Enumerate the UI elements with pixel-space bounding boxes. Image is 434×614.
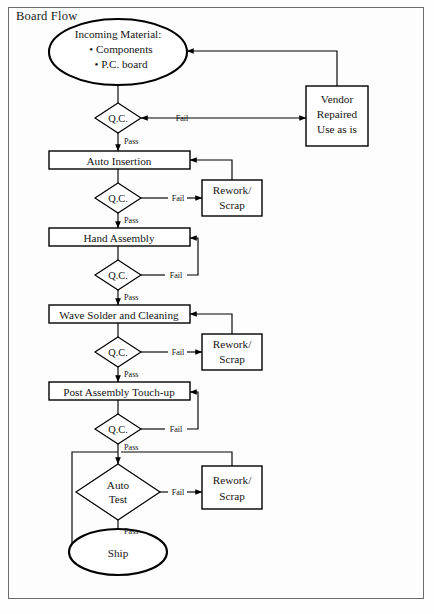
edge-rework2-to-wave-solder: [190, 314, 232, 334]
node-ship-label: Ship: [108, 547, 129, 559]
edge-vendor-to-incoming: [187, 51, 337, 86]
node-qc3-label: Q.C.: [108, 270, 128, 281]
node-qc5-label: Q.C.: [108, 424, 128, 435]
flowchart-canvas: Incoming Material: • Components • P.C. b…: [0, 0, 434, 614]
node-hand-assembly-label: Hand Assembly: [83, 232, 155, 244]
node-auto-test-line-1: Test: [109, 493, 128, 505]
node-rework2-line-1: Scrap: [219, 353, 245, 365]
node-qc2-label: Q.C.: [108, 193, 128, 204]
node-vendor-line-1: Repaired: [317, 108, 358, 120]
edge-label-qc1-pass: Pass: [124, 137, 139, 146]
edge-label-qc3-fail: Fail: [170, 271, 183, 280]
node-incoming-material-line-2: • P.C. board: [94, 58, 147, 70]
edge-label-auto-test-fail: Fail: [172, 488, 185, 497]
node-wave-solder-label: Wave Solder and Cleaning: [59, 309, 179, 321]
node-qc4-label: Q.C.: [108, 347, 128, 358]
edge-label-qc2-pass: Pass: [124, 216, 139, 225]
node-incoming-material-line-0: Incoming Material:: [75, 28, 162, 40]
node-vendor-line-0: Vendor: [321, 93, 354, 105]
node-incoming-material-line-1: • Components: [89, 43, 152, 55]
flowchart-page: Board Flow: [0, 0, 434, 614]
edge-label-qc4-pass: Pass: [124, 370, 139, 379]
edge-label-auto-test-pass: Pass: [124, 527, 139, 536]
edge-label-qc4-fail: Fail: [172, 348, 185, 357]
edge-rework1-to-auto-insertion: [190, 160, 232, 180]
node-auto-test[interactable]: [76, 464, 160, 520]
node-auto-insertion-label: Auto Insertion: [87, 155, 152, 167]
edge-label-qc5-pass: Pass: [124, 443, 139, 452]
node-post-assembly-label: Post Assembly Touch-up: [63, 386, 175, 398]
node-rework2-line-0: Rework/: [213, 338, 252, 350]
node-rework3-line-0: Rework/: [213, 474, 252, 486]
node-vendor-line-2: Use as is: [317, 123, 357, 135]
edge-label-qc2-fail: Fail: [172, 194, 185, 203]
edge-label-qc5-fail: Fail: [170, 425, 183, 434]
node-rework1-line-0: Rework/: [213, 184, 252, 196]
node-rework3-line-1: Scrap: [219, 490, 245, 502]
edge-label-qc3-pass: Pass: [124, 293, 139, 302]
edge-label-qc1-fail: Fail: [176, 114, 189, 123]
node-rework1-line-1: Scrap: [219, 199, 245, 211]
node-qc1-label: Q.C.: [108, 113, 128, 124]
node-rework3[interactable]: [202, 466, 262, 509]
node-auto-test-line-0: Auto: [107, 479, 130, 491]
edge-rework3-to-auto-test: [121, 452, 232, 466]
